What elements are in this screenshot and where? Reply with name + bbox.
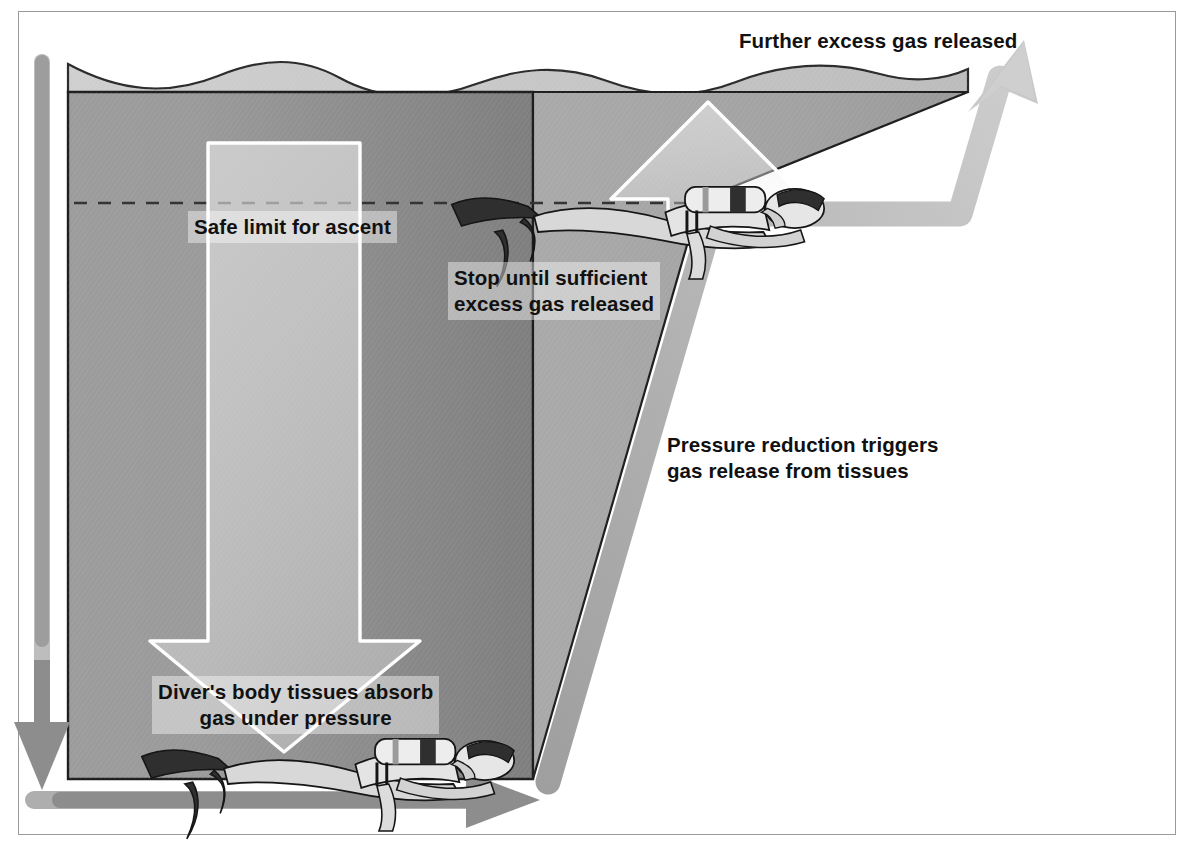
time-axis-arrowhead [466, 772, 540, 828]
label-stop-until-sufficient-excess-gas-released: Stop until sufficient excess gas release… [448, 262, 660, 320]
label-safe-limit-for-ascent: Safe limit for ascent [188, 211, 397, 243]
label-pressure-reduction-triggers-gas-release: Pressure reduction triggers gas release … [667, 432, 939, 484]
depth-axis-arrowhead [14, 722, 70, 790]
depth-axis [14, 62, 70, 790]
label-further-excess-gas-released: Further excess gas released [739, 28, 1017, 54]
label-divers-body-tissues-absorb-gas: Diver's body tissues absorb gas under pr… [152, 676, 439, 734]
diagram-canvas: Further excess gas released Safe limit f… [0, 0, 1194, 861]
